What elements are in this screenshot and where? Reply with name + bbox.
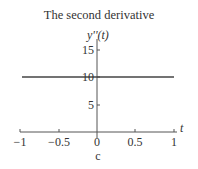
x-tick-label-neg1: −1: [5, 136, 35, 148]
x-tick-label-0-5: 0.5: [120, 136, 150, 148]
figure-caption: c: [92, 150, 104, 162]
y-tick-label-15: 15: [72, 44, 94, 56]
y-tick-label-10: 10: [72, 71, 94, 83]
y-tick-label-5: 5: [72, 99, 94, 111]
x-tick-label-0: 0: [82, 136, 112, 148]
chart-title: The second derivative: [0, 9, 198, 22]
x-tick-label-neg0-5: −0.5: [44, 136, 74, 148]
x-tick-label-1: 1: [159, 136, 189, 148]
y-axis-label: y''(t): [87, 29, 109, 41]
x-axis-label: t: [180, 122, 183, 134]
